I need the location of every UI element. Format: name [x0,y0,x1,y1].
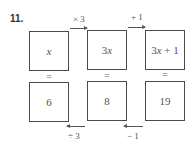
value-8: 8 [104,95,110,107]
equals-sign: = [29,72,69,82]
value-6: 6 [46,96,52,108]
inverse-op-label-subtract: − 1 [127,131,139,141]
equals-sign: = [145,70,185,80]
equals-sign: = [87,71,127,81]
arrow-right-icon [70,28,87,29]
inverse-op-label-divide: ÷ 3 [68,131,80,141]
arrow-right-icon [128,27,145,28]
top-box-3x: 3x [87,30,127,70]
expression-x: x [47,45,52,57]
forward-op-label-multiply: × 3 [73,14,85,24]
arrow-left-icon [124,126,143,127]
top-box-x: x [29,31,69,71]
arrow-left-icon [67,126,85,127]
bottom-box-6: 6 [29,82,69,122]
top-box-3x-plus-1: 3x + 1 [145,30,185,70]
problem-number: 11. [10,13,23,24]
value-19: 19 [160,95,171,107]
expression-3x: 3x [102,44,112,56]
bottom-box-8: 8 [87,81,127,121]
expression-3x-plus-1: 3x + 1 [151,44,179,56]
forward-op-label-add: + 1 [131,12,143,22]
bottom-box-19: 19 [145,81,185,121]
